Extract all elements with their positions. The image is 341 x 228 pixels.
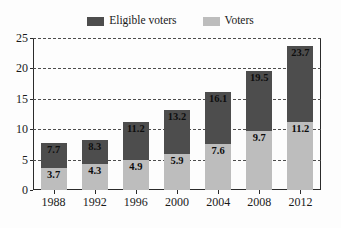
bar-segment-voters[interactable]: 11.2 <box>287 122 313 190</box>
y-axis-tick-label: 5 <box>22 152 28 167</box>
x-axis-tick-label: 2004 <box>206 195 230 210</box>
x-axis-tick-label: 2008 <box>247 195 271 210</box>
stacked-bar-chart: Eligible voters Voters 0510152025 7.73.7… <box>0 0 341 228</box>
bar-series-container: 7.73.78.34.311.24.913.25.916.17.619.59.7… <box>33 38 321 190</box>
bar-value-label-voters: 4.3 <box>82 166 108 177</box>
bar-group[interactable]: 19.59.7 <box>246 71 272 190</box>
x-axis-tick-label: 2000 <box>165 195 189 210</box>
x-axis-tick-mark <box>136 190 137 194</box>
legend-swatch-voters <box>203 17 220 26</box>
y-axis-tick-label: 0 <box>22 183 28 198</box>
x-axis-tick-mark <box>54 190 55 194</box>
plot-area: 0510152025 7.73.78.34.311.24.913.25.916.… <box>33 38 321 190</box>
bar-value-label-eligible-voters: 8.3 <box>82 142 108 153</box>
bar-value-label-eligible-voters: 11.2 <box>123 124 149 135</box>
bar-segment-voters[interactable]: 4.3 <box>82 164 108 190</box>
bar-segment-eligible-voters[interactable]: 23.7 <box>287 46 313 122</box>
legend-label-eligible-voters: Eligible voters <box>109 15 176 27</box>
x-axis-tick-label: 1992 <box>83 195 107 210</box>
bar-segment-eligible-voters[interactable]: 7.7 <box>41 143 67 167</box>
y-axis-tick-label: 10 <box>16 122 28 137</box>
x-axis-tick-label: 1988 <box>42 195 66 210</box>
bar-segment-eligible-voters[interactable]: 16.1 <box>205 92 231 144</box>
legend-entry-eligible-voters: Eligible voters <box>87 15 176 27</box>
bar-segment-eligible-voters[interactable]: 19.5 <box>246 71 272 131</box>
bar-value-label-eligible-voters: 23.7 <box>287 48 313 59</box>
bar-value-label-eligible-voters: 13.2 <box>164 112 190 123</box>
legend-entry-voters: Voters <box>203 15 254 27</box>
bar-segment-eligible-voters[interactable]: 11.2 <box>123 122 149 160</box>
bar-value-label-eligible-voters: 19.5 <box>246 73 272 84</box>
y-axis-tick-label: 20 <box>16 61 28 76</box>
y-axis-tick-label: 25 <box>16 31 28 46</box>
bar-value-label-eligible-voters: 7.7 <box>41 145 67 156</box>
bar-segment-eligible-voters[interactable]: 13.2 <box>164 110 190 154</box>
bar-value-label-voters: 7.6 <box>205 146 231 157</box>
bar-segment-voters[interactable]: 9.7 <box>246 131 272 190</box>
bar-group[interactable]: 23.711.2 <box>287 46 313 190</box>
bar-group[interactable]: 16.17.6 <box>205 92 231 190</box>
bar-value-label-voters: 11.2 <box>287 124 313 135</box>
x-axis-tick-label: 1996 <box>124 195 148 210</box>
bar-value-label-eligible-voters: 16.1 <box>205 94 231 105</box>
bar-segment-eligible-voters[interactable]: 8.3 <box>82 140 108 164</box>
legend-label-voters: Voters <box>225 15 254 27</box>
bar-segment-voters[interactable]: 4.9 <box>123 160 149 190</box>
x-axis-tick-mark <box>259 190 260 194</box>
bar-value-label-voters: 5.9 <box>164 156 190 167</box>
x-axis-tick-mark <box>218 190 219 194</box>
bar-group[interactable]: 13.25.9 <box>164 110 190 190</box>
legend-swatch-eligible-voters <box>87 17 104 26</box>
x-axis-tick-mark <box>177 190 178 194</box>
bar-value-label-voters: 4.9 <box>123 162 149 173</box>
bar-group[interactable]: 7.73.7 <box>41 143 67 190</box>
bar-segment-voters[interactable]: 5.9 <box>164 154 190 190</box>
bar-value-label-voters: 3.7 <box>41 170 67 181</box>
x-axis-tick-mark <box>300 190 301 194</box>
x-axis-tick-mark <box>95 190 96 194</box>
bar-value-label-voters: 9.7 <box>246 133 272 144</box>
x-axis-tick-label: 2012 <box>288 195 312 210</box>
bar-segment-voters[interactable]: 7.6 <box>205 144 231 190</box>
bar-group[interactable]: 11.24.9 <box>123 122 149 190</box>
y-axis-tick-label: 15 <box>16 91 28 106</box>
x-axis: 1988199219962000200420082012 <box>33 190 321 214</box>
chart-legend: Eligible voters Voters <box>0 12 341 30</box>
bar-group[interactable]: 8.34.3 <box>82 140 108 190</box>
bar-segment-voters[interactable]: 3.7 <box>41 168 67 190</box>
